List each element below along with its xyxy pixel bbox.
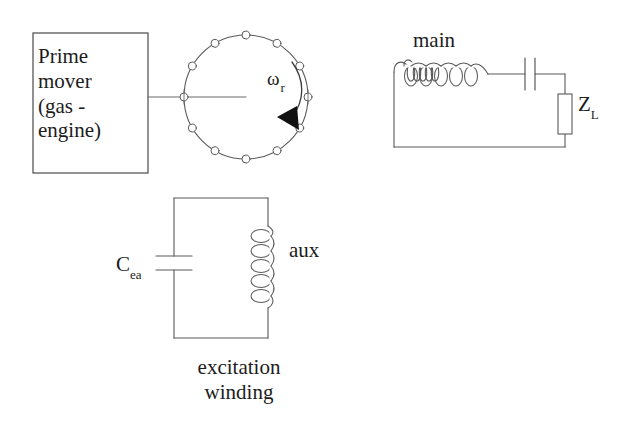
load-impedance-label: ZL	[578, 92, 599, 120]
rotation-arrowhead	[277, 106, 299, 130]
prime-mover-label: Prime mover (gas - engine)	[38, 44, 101, 143]
c-symbol: C	[116, 252, 130, 276]
excitation-winding-caption: excitation winding	[154, 355, 324, 405]
diagram-canvas: Prime mover (gas - engine) ωr main ZL Ce…	[0, 0, 634, 433]
main-series-capacitor	[525, 58, 535, 90]
main-coil-loops	[404, 60, 488, 86]
z-symbol: Z	[578, 92, 591, 116]
aux-coil-label: aux	[289, 238, 319, 263]
omega-subscript: r	[281, 80, 285, 95]
excitation-capacitor	[156, 256, 192, 270]
c-subscript: ea	[130, 267, 142, 282]
aux-coil	[251, 226, 274, 308]
rotor-speed-label: ωr	[267, 68, 284, 93]
load-impedance-box	[558, 94, 572, 134]
omega-symbol: ω	[267, 68, 280, 89]
main-winding-label: main	[413, 28, 455, 53]
excitation-capacitor-label: Cea	[116, 252, 142, 280]
z-subscript: L	[591, 107, 599, 122]
main-coil	[407, 66, 438, 81]
